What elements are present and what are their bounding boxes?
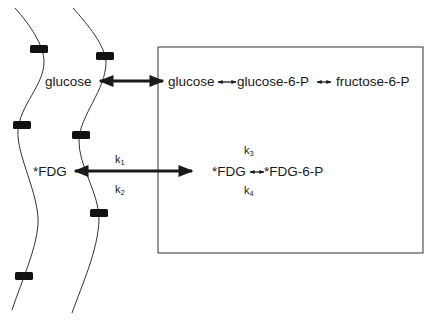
membrane-left [12, 8, 44, 310]
fdg-kinetics-diagram: glucose *FDG k1 k2 glucose glucose-6-P f… [0, 0, 429, 323]
cell-fdg-label: *FDG [212, 164, 246, 179]
cell-glucose-label: glucose [168, 74, 215, 89]
transporter [15, 272, 33, 280]
extracellular-fdg-label: *FDG [33, 164, 67, 179]
k3-label: k3 [244, 144, 254, 158]
k4-label: k4 [244, 184, 254, 198]
extracellular-glucose-label: glucose [45, 74, 92, 89]
k2-label: k2 [115, 183, 125, 197]
transporter [90, 209, 108, 217]
transporter [96, 52, 114, 60]
k1-label: k1 [115, 153, 125, 167]
transporter [13, 121, 31, 129]
transporter [30, 45, 48, 53]
fructose-6-phosphate-label: fructose-6-P [336, 74, 410, 89]
transporter [72, 131, 90, 139]
glucose-6-phosphate-label: glucose-6-P [237, 74, 309, 89]
fdg-6-phosphate-label: *FDG-6-P [264, 164, 323, 179]
